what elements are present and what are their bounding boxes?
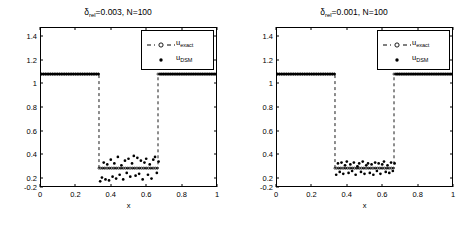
series-u-dsm-point [108,179,111,182]
series-u-dsm-point [122,178,125,181]
panel-right-legend: uexact uDSM [377,30,450,70]
ytick-label-0.4: 0.4 [263,150,273,159]
series-u-dsm-point [367,162,370,165]
series-u-dsm-point [109,158,112,161]
series-u-dsm-point [379,172,382,175]
series-u-dsm-point [152,158,155,161]
panel-left-title: δrel=0.003, N=100 [0,7,236,19]
ytick-label--0.2: -0.2 [260,183,273,192]
panel-left-title-rest: =0.003, N=100 [96,7,152,17]
series-u-dsm-point [386,164,389,167]
panel-left-legend: uexact uDSM [141,30,214,70]
xtick-label-0.8: 0.8 [412,190,422,199]
ytick-label-1.2: 1.2 [27,55,37,64]
series-u-dsm-point [157,160,160,163]
xtick-label-0.4: 0.4 [342,190,352,199]
legend-label-u-dsm: uDSM [176,53,192,63]
series-u-dsm-point [138,172,141,175]
ytick-label-0.4: 0.4 [27,150,37,159]
series-u-dsm-point [381,163,384,166]
series-u-dsm-point [333,73,336,76]
legend-label-u-dsm: uDSM [412,53,428,63]
series-u-dsm-point [145,157,148,160]
series-u-dsm-point [147,173,150,176]
series-u-dsm-point [358,162,361,165]
series-u-dsm-point [148,163,151,166]
legend-marker-dashed-circle [146,37,176,49]
series-u-dsm-point [356,165,359,168]
panel-right-title-rest: =0.001, N=100 [332,7,388,17]
series-u-dsm-point [124,159,127,162]
series-u-dsm-point [102,161,105,164]
series-u-dsm-point [351,170,354,173]
ytick-label-1.4: 1.4 [263,32,273,41]
panel-left: δrel=0.003, N=100 1.4 1.2 1 0.8 0.6 0.4 [0,0,236,239]
series-u-dsm-point [154,156,157,159]
ytick-label-0.6: 0.6 [263,126,273,135]
series-u-dsm-point [360,171,363,174]
legend-label-u-exact: uexact [176,38,193,48]
legend-entry-u-dsm: uDSM [382,50,444,65]
legend-entry-u-exact: uexact [382,35,444,50]
ytick-label-1.4: 1.4 [27,32,37,41]
series-u-dsm-point [388,172,391,175]
series-u-dsm-point [370,163,373,166]
series-u-dsm-point [141,178,144,181]
series-u-dsm-point [347,172,350,175]
series-u-dsm-point [340,161,343,164]
series-u-dsm-point [125,172,128,175]
series-u-dsm-point [353,161,356,164]
series-u-exact [40,74,217,168]
xtick-label-0.4: 0.4 [106,190,116,199]
panel-left-title-sub: rel [89,12,96,18]
xtick-label-0.2: 0.2 [70,190,80,199]
series-u-dsm-point [150,177,153,180]
series-u-dsm-point [136,156,139,159]
panel-right-title: δrel=0.001, N=100 [236,7,472,19]
series-u-dsm-point [391,170,394,173]
series-u-dsm-point [393,162,396,165]
legend-marker-dot [382,52,412,64]
series-u-dsm-point [349,163,352,166]
series-u-dsm-point [368,172,371,175]
xtick-label-1: 1 [215,190,219,199]
series-u-dsm-point [118,173,121,176]
series-u-dsm-point [120,164,123,167]
series-u-dsm-point [99,180,102,183]
series-u-dsm-point [131,162,134,165]
ytick-label-1: 1 [269,79,273,88]
ytick-label-1: 1 [33,79,37,88]
series-u-dsm-point [104,178,107,181]
series-u-dsm-point [106,163,109,166]
panel-left-xaxis-label: x [127,201,131,210]
series-u-dsm-point [376,170,379,173]
ytick-label-0.8: 0.8 [27,103,37,112]
series-u-dsm-point [338,171,341,174]
series-u-dsm-point [345,160,348,163]
xtick-label-0: 0 [274,190,278,199]
ytick-label--0.2: -0.2 [24,183,37,192]
figure-two-panel-dsm-reconstruction: δrel=0.003, N=100 1.4 1.2 1 0.8 0.6 0.4 [0,0,472,239]
series-u-dsm-point [374,161,377,164]
xtick-label-1: 1 [451,190,455,199]
ytick-label-0.6: 0.6 [27,126,37,135]
series-u-dsm-point [101,176,104,179]
panel-right-xaxis-label: x [363,201,367,210]
series-u-dsm-point [384,171,387,174]
series-u-dsm-point [117,156,120,159]
series-u-dsm-point [140,159,143,162]
series-u-dsm-point [361,160,364,163]
ytick-label-1.2: 1.2 [263,55,273,64]
legend-marker-dashed-circle [382,37,412,49]
series-u-dsm-point [97,73,100,76]
series-u-dsm-point [129,175,132,178]
ytick-label-0.8: 0.8 [263,103,273,112]
panel-right-axes: 1.4 1.2 1 0.8 0.6 0.4 0.2 -0.2 0 [276,27,453,187]
series-u-dsm-point [335,173,338,176]
series-u-dsm-point [111,175,114,178]
series-u-dsm-point [155,172,158,175]
series-u-dsm-point [390,161,393,164]
panel-right: δrel=0.001, N=100 1.4 1.2 1 0.8 0.6 0.4 [236,0,472,239]
series-u-dsm-point [134,174,137,177]
series-u-dsm-point [377,162,380,165]
